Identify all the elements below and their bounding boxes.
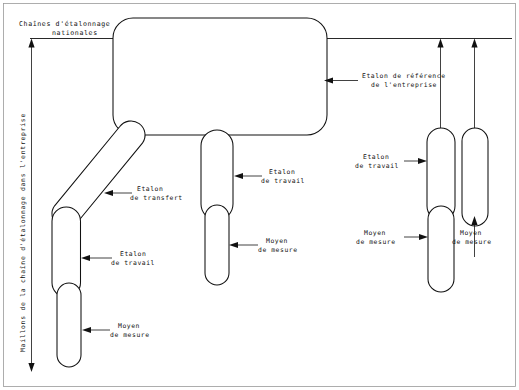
label-transfer-standard-1: Etalon [137, 185, 163, 193]
callout-working-standard-left: Etalon de travail [81, 250, 155, 267]
label-measuring-means-far-right-1: Moyen [460, 229, 482, 237]
link-measuring-means-right [428, 206, 454, 292]
label-measuring-means-right-1: Moyen [364, 229, 386, 237]
label-reference-standard-1: Etalon de référence [362, 72, 446, 80]
label-working-standard-middle-2: de travail [261, 177, 305, 185]
callout-working-standard-right: Etalon de travail [355, 153, 427, 170]
callout-measuring-means-far-right: Moyen de mesure [452, 229, 492, 246]
label-working-standard-right-1: Etalon [363, 153, 389, 161]
axis-arrow-up [28, 39, 34, 48]
callout-measuring-means-left: Moyen de mesure [82, 322, 150, 339]
label-working-standard-middle-1: Etalon [269, 168, 295, 176]
link-measuring-means-middle [205, 205, 229, 285]
callout-working-standard-middle: Etalon de travail [234, 168, 305, 185]
heading-line-2: nationales [52, 29, 98, 37]
link-reference-standard [113, 18, 327, 135]
right-traceability-arrows [437, 39, 477, 134]
label-measuring-means-right-2: de mesure [356, 238, 396, 246]
calibration-chain-diagram: Chaînes d'étalonnage nationales Maillons… [0, 0, 519, 390]
axis-arrow-down [28, 363, 34, 372]
label-reference-standard-2: de l'entreprise [371, 81, 437, 89]
link-measuring-means-far-right [462, 128, 488, 226]
callout-measuring-means-middle: Moyen de mesure [229, 237, 298, 254]
label-measuring-means-middle-2: de mesure [258, 246, 298, 254]
heading-line-1: Chaînes d'étalonnage [19, 20, 110, 28]
chain-span-axis [28, 39, 34, 373]
callout-transfer-standard: Etalon de transfert [104, 185, 183, 202]
label-measuring-means-middle-1: Moyen [266, 237, 288, 245]
link-measuring-means-left [57, 283, 81, 367]
right-arrow-up-b [471, 39, 477, 48]
right-arrow-up-a [437, 39, 443, 48]
axis-label: Maillons de la chaîne d'étalonnage dans … [19, 113, 27, 352]
label-working-standard-left-2: de travail [111, 259, 155, 267]
label-measuring-means-left-1b: Moyen [118, 322, 140, 330]
callout-measuring-means-right: Moyen de mesure [356, 229, 428, 246]
diagram-canvas: Chaînes d'étalonnage nationales Maillons… [0, 0, 519, 390]
label-working-standard-right-2: de travail [355, 162, 399, 170]
label-working-standard-left-1: Etalon [120, 250, 146, 258]
callout-reference-standard: Etalon de référence de l'entreprise [324, 72, 446, 89]
label-transfer-standard-2: de transfert [130, 194, 183, 202]
label-measuring-means-far-right-2: de mesure [452, 238, 492, 246]
label-measuring-means-left-2: de mesure [110, 331, 150, 339]
